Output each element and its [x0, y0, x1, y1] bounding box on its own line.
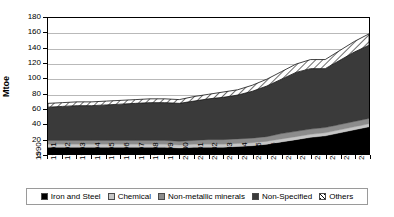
x-tick-label: 1992 [64, 142, 72, 160]
legend-swatch-icon [108, 193, 115, 200]
legend-label: Non-Specified [262, 192, 312, 201]
y-tick-label: 40 [32, 120, 41, 128]
x-tick-mark [47, 155, 48, 159]
y-tick-label: 160 [28, 28, 41, 36]
x-tick-label: 2007 [285, 142, 293, 160]
legend-label: Chemical [118, 192, 151, 201]
x-tick-mark [238, 155, 239, 159]
x-tick-label: 1993 [79, 142, 87, 160]
x-tick-label: 2001 [197, 142, 205, 160]
x-tick-label: 2011 [343, 143, 351, 160]
x-tick-mark [194, 155, 195, 159]
x-tick-label: 2003 [226, 142, 234, 160]
y-tick-label: 100 [28, 74, 41, 82]
chart-legend: Iron and SteelChemicalNon-metallic miner… [26, 188, 368, 205]
x-tick-mark [135, 155, 136, 159]
y-tick-label: 140 [28, 44, 41, 52]
y-tick-label: 60 [32, 105, 41, 113]
legend-item-others[interactable]: Others [319, 192, 353, 201]
x-tick-label: 1999 [167, 142, 175, 160]
legend-swatch-icon [158, 193, 165, 200]
y-tick-label: 80 [32, 90, 41, 98]
x-tick-label: 1998 [152, 142, 160, 160]
legend-swatch-icon [319, 193, 326, 200]
x-tick-label: 1994 [94, 142, 102, 160]
x-tick-mark [282, 155, 283, 159]
x-tick-mark [179, 155, 180, 159]
x-tick-mark [370, 155, 371, 159]
legend-swatch-icon [252, 193, 259, 200]
y-tick-label: 120 [28, 59, 41, 67]
x-tick-label: 2004 [241, 142, 249, 160]
legend-item-chemical[interactable]: Chemical [108, 192, 151, 201]
x-tick-label: 2010 [329, 142, 337, 160]
x-tick-label: 2002 [211, 142, 219, 160]
x-tick-label: 1990 [35, 142, 43, 160]
x-tick-label: 1991 [50, 142, 58, 160]
x-tick-mark [91, 155, 92, 159]
x-tick-label: 2005 [255, 142, 263, 160]
area-series-group [48, 18, 369, 154]
x-tick-label: 2009 [314, 142, 322, 160]
legend-label: Others [329, 192, 353, 201]
x-tick-mark [326, 155, 327, 159]
legend-item-iron-and-steel[interactable]: Iron and Steel [41, 192, 101, 201]
y-tick-label: 180 [28, 13, 41, 21]
x-tick-label: 1995 [108, 142, 116, 160]
plot-area [47, 17, 370, 155]
legend-label: Non-metallic minerals [168, 192, 245, 201]
x-tick-label: 2000 [182, 142, 190, 160]
legend-item-non-specified[interactable]: Non-Specified [252, 192, 312, 201]
stacked-area-chart: Mtoe 020406080100120140160180 1990199119… [0, 0, 394, 217]
x-tick-label: 1997 [138, 142, 146, 160]
x-tick-label: 2012 [358, 142, 366, 160]
legend-label: Iron and Steel [51, 192, 101, 201]
x-tick-label: 2006 [270, 142, 278, 160]
legend-swatch-icon [41, 193, 48, 200]
legend-item-non-metallic-minerals[interactable]: Non-metallic minerals [158, 192, 245, 201]
x-tick-label: 1996 [123, 142, 131, 160]
x-axis: 1990199119921993199419951996199719981999… [47, 155, 370, 187]
x-tick-label: 2008 [299, 142, 307, 160]
